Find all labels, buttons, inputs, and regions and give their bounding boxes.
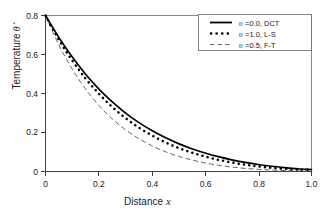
chart-legend: υ =0.0, DCT υ =1.0, L-S υ =0.5, F-T bbox=[198, 14, 311, 50]
legend-label: =0.0, DCT bbox=[245, 19, 280, 28]
legend-label: =1.0, L-S bbox=[245, 30, 276, 39]
legend-symbol: υ bbox=[239, 19, 243, 28]
y-tick-label: 0 bbox=[33, 167, 38, 177]
y-tick-label: 0.2 bbox=[26, 127, 38, 137]
x-axis-ticks bbox=[46, 172, 312, 176]
legend-symbol: υ bbox=[239, 30, 243, 39]
y-tick-label: 0.6 bbox=[26, 50, 38, 60]
x-axis-title: Distance x bbox=[124, 196, 171, 207]
y-tick-label: 0.4 bbox=[26, 89, 38, 99]
x-tick-label: 0.4 bbox=[146, 179, 158, 189]
y-axis-tick-labels: 0 0.2 0.4 0.6 0.8 bbox=[26, 11, 38, 177]
chart-figure: 0 0.2 0.4 0.6 0.8 0 0.2 0.4 0.6 0.8 1.0 … bbox=[0, 0, 332, 214]
y-axis-title-subscript: * bbox=[12, 22, 18, 25]
temperature-vs-distance-chart: 0 0.2 0.4 0.6 0.8 0 0.2 0.4 0.6 0.8 1.0 … bbox=[0, 0, 332, 214]
x-tick-label: 0.8 bbox=[253, 179, 265, 189]
y-axis-title-main: Temperature bbox=[11, 33, 22, 90]
x-tick-label: 1.0 bbox=[306, 179, 318, 189]
x-tick-label: 0 bbox=[43, 179, 48, 189]
y-axis-title-variable: θ bbox=[11, 26, 22, 31]
x-axis-title-variable: x bbox=[165, 196, 171, 207]
y-tick-label: 0.8 bbox=[26, 11, 38, 21]
x-tick-label: 0.2 bbox=[93, 179, 105, 189]
y-axis-ticks bbox=[41, 16, 45, 172]
x-tick-label: 0.6 bbox=[200, 179, 212, 189]
legend-label: =0.5, F-T bbox=[245, 41, 276, 50]
y-axis-title: Temperature θ * bbox=[11, 22, 22, 90]
x-axis-tick-labels: 0 0.2 0.4 0.6 0.8 1.0 bbox=[43, 179, 318, 189]
x-axis-title-main: Distance bbox=[124, 196, 163, 207]
legend-symbol: υ bbox=[239, 41, 243, 50]
